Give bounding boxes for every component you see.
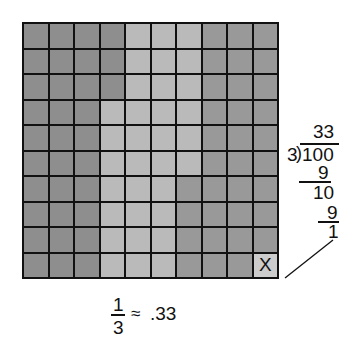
fraction-numerator: 1 <box>113 295 124 314</box>
step2-subtract: 9 <box>327 203 338 222</box>
quotient: 33 <box>313 122 334 141</box>
step1-result: 10 <box>313 183 334 202</box>
remainder-leader-line <box>0 0 361 345</box>
decimal-value: .33 <box>150 304 176 323</box>
approx-symbol: ≈ <box>131 305 140 322</box>
fraction-bar <box>111 314 125 316</box>
fraction-denominator: 3 <box>113 318 124 337</box>
remainder: 1 <box>328 222 339 241</box>
step1-subtract: 9 <box>318 163 329 182</box>
